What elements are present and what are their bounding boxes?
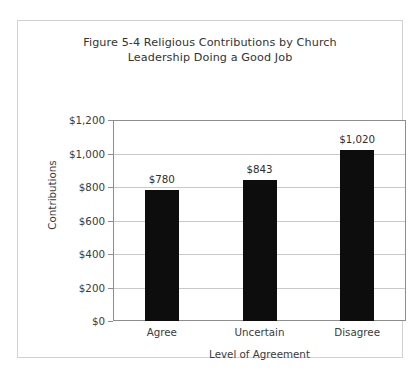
chart-title: Figure 5-4 Religious Contributions by Ch… (18, 35, 402, 65)
chart-screenshot: Figure 5-4 Religious Contributions by Ch… (0, 0, 419, 375)
y-axis-tick-label: $1,000 (69, 148, 105, 160)
x-axis-tick-label: Agree (147, 326, 177, 338)
x-axis-tick-labels: AgreeUncertainDisagree (113, 326, 406, 342)
gridline (114, 221, 405, 222)
gridline (114, 187, 405, 188)
y-axis-tick-labels: $0$200$400$600$800$1,000$1,200 (52, 120, 109, 321)
y-axis-tick-label: $600 (79, 215, 105, 227)
y-axis-tick-mark (108, 321, 113, 322)
chart-title-line-1: Figure 5-4 Religious Contributions by Ch… (18, 35, 402, 50)
y-axis-tick-label: $400 (79, 248, 105, 260)
x-axis-tick-label: Uncertain (234, 326, 284, 338)
y-axis-tick-label: $800 (79, 181, 105, 193)
gridline (114, 154, 405, 155)
y-axis-tick-label: $0 (92, 315, 105, 327)
gridline (114, 288, 405, 289)
chart-frame: Figure 5-4 Religious Contributions by Ch… (17, 20, 403, 358)
plot-area (113, 120, 406, 321)
y-axis-tick-label: $200 (79, 282, 105, 294)
x-axis-title: Level of Agreement (113, 348, 406, 360)
x-axis-tick-label: Disagree (334, 326, 380, 338)
chart-title-line-2: Leadership Doing a Good Job (18, 50, 402, 65)
gridline (114, 254, 405, 255)
y-axis-tick-label: $1,200 (69, 114, 105, 126)
